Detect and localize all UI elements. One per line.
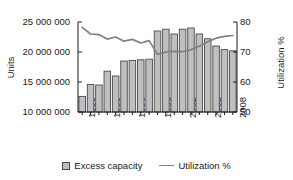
line-swatch-icon [159, 165, 174, 166]
bar-swatch-icon [62, 162, 70, 170]
legend-item-utilization: Utilization % [159, 160, 230, 171]
plot-area [0, 0, 293, 180]
bar-2008 [230, 51, 237, 112]
legend-label-utilization: Utilization % [178, 160, 230, 171]
bar-2006 [213, 46, 220, 112]
bar-2007 [221, 50, 228, 112]
legend-label-excess-capacity: Excess capacity [74, 160, 142, 171]
bar-2002 [179, 29, 186, 112]
bar-1995 [121, 61, 128, 112]
bar-1997 [138, 60, 145, 112]
bar-1992 [96, 85, 103, 112]
bar-1994 [112, 76, 119, 112]
bar-1993 [104, 71, 111, 112]
bar-2005 [204, 39, 211, 112]
bar-2003 [188, 28, 195, 112]
chart-figure: Units Utilization % 25 000 00020 000 000… [0, 0, 293, 180]
legend-item-excess-capacity: Excess capacity [62, 160, 142, 171]
bar-1990 [79, 96, 86, 112]
bar-2000 [163, 29, 170, 112]
bar-1998 [146, 59, 153, 112]
bar-1991 [87, 84, 94, 112]
chart-legend: Excess capacity Utilization % [0, 160, 293, 171]
bar-1996 [129, 60, 136, 112]
bar-1999 [154, 31, 161, 112]
bar-2001 [171, 34, 178, 112]
